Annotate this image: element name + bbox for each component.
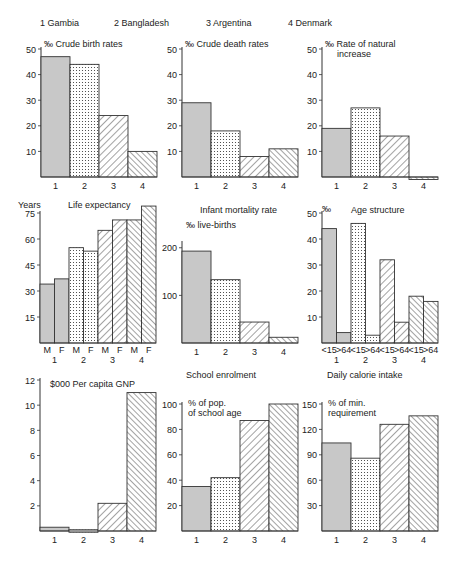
y-tick-label: 100	[162, 400, 177, 410]
bar	[240, 322, 269, 343]
bar	[98, 230, 113, 343]
bar	[269, 404, 298, 531]
bar	[351, 108, 380, 177]
bar	[351, 223, 366, 343]
x-tick-label: 1	[53, 181, 58, 191]
y-tick-label: 12	[25, 376, 35, 386]
bar	[69, 248, 84, 343]
x-sub-label: >64	[394, 345, 409, 355]
bar	[409, 296, 424, 343]
chart-crude-death-rates: 10203040501234‰ Crude death rates	[167, 39, 298, 191]
x-sub-label: F	[146, 345, 152, 355]
y-tick-label: 60	[167, 450, 177, 460]
bar	[395, 322, 410, 343]
chart-school-enrolment: 204060801001234School enrolment% of pop.…	[162, 370, 298, 545]
y-tick-label: 50	[307, 45, 317, 55]
x-tick-label: 1	[334, 181, 339, 191]
x-tick-label: 3	[392, 535, 397, 545]
bar	[269, 337, 298, 343]
y-unit-label-line2: of school age	[188, 408, 242, 418]
chart-title: ‰ Crude birth rates	[44, 39, 123, 49]
y-tick-label: 20	[307, 287, 317, 297]
bar	[337, 333, 352, 343]
x-sub-label: F	[88, 345, 94, 355]
charts-canvas: 10203040501234‰ Crude birth rates1020304…	[0, 0, 466, 567]
y-tick-label: 30	[307, 501, 317, 511]
x-tick-label: 4	[139, 535, 144, 545]
chart-title: $000 Per capita GNP	[50, 379, 135, 389]
x-group-label: 4	[139, 355, 144, 365]
chart-life-expectancy: 1530456075MFMFMFMF1234YearsLife expectan…	[18, 200, 156, 365]
bar	[240, 421, 269, 531]
chart-per-capita-gnp: 246810121234$000 Per capita GNP	[25, 376, 156, 546]
y-tick-label: 30	[307, 96, 317, 106]
x-tick-label: 2	[81, 535, 86, 545]
x-sub-label: <15	[380, 345, 395, 355]
y-tick-label: 50	[26, 45, 36, 55]
bar	[41, 57, 70, 177]
y-unit-label: Years	[18, 200, 41, 210]
y-tick-label: 50	[167, 45, 177, 55]
x-tick-label: 1	[194, 181, 199, 191]
x-tick-label: 4	[140, 181, 145, 191]
bar	[424, 301, 439, 343]
x-sub-label: <15	[409, 345, 424, 355]
y-unit-label-line2: requirement	[328, 408, 377, 418]
x-group-label: 2	[363, 355, 368, 365]
chart-title: School enrolment	[186, 370, 257, 380]
y-tick-label: 100	[162, 291, 177, 301]
x-tick-label: 3	[252, 181, 257, 191]
y-tick-label: 40	[26, 70, 36, 80]
chart-title: Infant mortality rate	[200, 205, 277, 215]
x-tick-label: 1	[52, 535, 57, 545]
y-tick-label: 75	[25, 209, 35, 219]
bar	[409, 416, 438, 531]
x-tick-label: 1	[194, 535, 199, 545]
y-tick-label: 200	[162, 243, 177, 253]
bar	[40, 527, 69, 531]
x-tick-label: 3	[111, 181, 116, 191]
x-tick-label: 2	[363, 181, 368, 191]
y-tick-label: 10	[167, 147, 177, 157]
x-tick-label: 2	[363, 535, 368, 545]
bar	[182, 251, 211, 343]
bar	[211, 280, 240, 343]
x-group-label: 3	[110, 355, 115, 365]
bar	[127, 393, 156, 531]
x-tick-label: 2	[223, 535, 228, 545]
x-sub-label: F	[117, 345, 123, 355]
y-tick-label: 30	[167, 96, 177, 106]
bar	[380, 424, 409, 531]
y-tick-label: 30	[25, 287, 35, 297]
x-tick-label: 2	[82, 181, 87, 191]
x-tick-label: 4	[281, 347, 286, 357]
bar	[70, 64, 99, 177]
chart-title: Daily calorie intake	[327, 370, 403, 380]
x-tick-label: 3	[392, 181, 397, 191]
x-tick-label: 4	[281, 181, 286, 191]
y-tick-label: 90	[307, 450, 317, 460]
y-tick-label: 2	[30, 501, 35, 511]
y-tick-label: 40	[167, 70, 177, 80]
y-tick-label: 120	[302, 425, 317, 435]
x-group-label: 2	[81, 355, 86, 365]
x-group-label: 1	[52, 355, 57, 365]
y-tick-label: 20	[167, 501, 177, 511]
bar	[211, 131, 240, 177]
chart-title: Life expectancy	[68, 200, 131, 210]
chart-age-structure: 1020304050<15>64<15>64<15>64<15>641234‰A…	[307, 204, 438, 365]
bar	[182, 103, 211, 177]
x-sub-label: M	[73, 345, 81, 355]
y-tick-label: 40	[307, 235, 317, 245]
y-tick-label: 45	[25, 261, 35, 271]
x-sub-label: <15	[322, 345, 337, 355]
y-tick-label: 60	[25, 235, 35, 245]
x-sub-label: F	[59, 345, 65, 355]
x-tick-label: 4	[281, 535, 286, 545]
bar	[351, 458, 380, 531]
y-tick-label: 20	[26, 121, 36, 131]
x-tick-label: 1	[334, 535, 339, 545]
bar	[366, 335, 381, 343]
x-tick-label: 1	[194, 347, 199, 357]
bar	[211, 478, 240, 531]
